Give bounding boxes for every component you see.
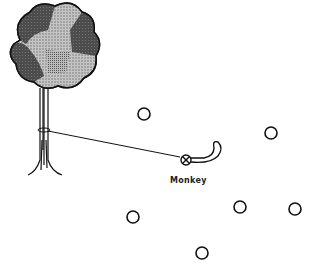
tree-canopy — [10, 3, 99, 88]
circle-4 — [234, 201, 246, 213]
circle-1 — [138, 108, 150, 120]
diagram-canvas — [0, 0, 309, 268]
circle-3 — [127, 211, 139, 223]
circle-5 — [289, 203, 301, 215]
target-circles — [127, 108, 301, 259]
monkey-label: Monkey — [170, 176, 207, 185]
rope — [38, 128, 180, 157]
monkey-icon — [181, 142, 221, 165]
circle-2 — [265, 127, 277, 139]
circle-6 — [196, 247, 208, 259]
